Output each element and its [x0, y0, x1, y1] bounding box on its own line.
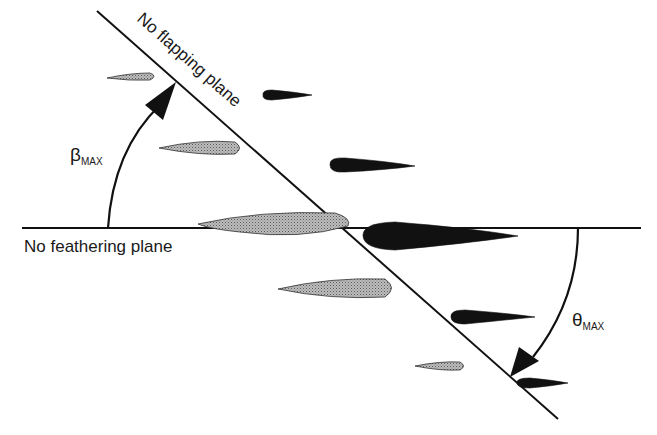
- beta-max-arrow: [108, 82, 176, 228]
- grey-blade-3: [198, 212, 349, 234]
- grey-blade-4: [278, 279, 392, 298]
- black-blade-1: [263, 90, 312, 100]
- grey-blade-1: [107, 73, 154, 80]
- black-blade-4: [451, 310, 535, 324]
- theta-max-arrow: [510, 228, 578, 377]
- beta-max-label: βMAX: [70, 144, 103, 167]
- diagram-svg: No flapping plane No feathering plane βM…: [0, 0, 657, 435]
- theta-arrowhead-icon: [510, 347, 539, 377]
- theta-max-label: θMAX: [572, 309, 605, 332]
- no-feathering-plane-label: No feathering plane: [24, 237, 172, 256]
- grey-blade-5: [415, 362, 464, 370]
- black-blade-2: [330, 158, 415, 172]
- rotor-plane-diagram: No flapping plane No feathering plane βM…: [0, 0, 657, 435]
- grey-blade-2: [159, 141, 240, 154]
- black-blade-3: [363, 222, 518, 250]
- black-blade-5: [517, 378, 568, 388]
- black-blades: [263, 90, 568, 388]
- no-flapping-plane-label: No flapping plane: [133, 9, 245, 111]
